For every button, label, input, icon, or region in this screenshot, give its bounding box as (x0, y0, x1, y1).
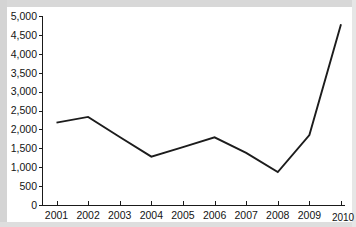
y-axis-tick-label: 2,000 (11, 123, 37, 135)
x-axis-tick-labels: 2001200220032004200520062007200820092010 (45, 209, 355, 223)
y-axis-tick-label: 500 (19, 180, 37, 192)
y-axis-tick-label: 3,500 (11, 67, 37, 79)
y-axis-tick-label: 3,000 (11, 85, 37, 97)
chart-plot-area: 05001,0001,5002,0002,5003,0003,5004,0004… (0, 0, 356, 227)
x-axis-tick-label: 2002 (76, 209, 100, 221)
x-axis-tick-label: 2006 (203, 209, 227, 221)
x-axis-tick-label: 2005 (171, 209, 195, 221)
x-axis-tick-label: 2010 (332, 212, 355, 223)
line-chart-figure: 05001,0001,5002,0002,5003,0003,5004,0004… (0, 0, 356, 227)
data-series-line (57, 24, 342, 172)
y-axis-tick-label: 4,000 (11, 48, 37, 60)
y-axis-tick-label: 1,000 (11, 161, 37, 173)
y-axis-tick-label: 5,000 (11, 10, 37, 22)
y-axis-tick-labels: 05001,0001,5002,0002,5003,0003,5004,0004… (11, 10, 37, 211)
x-axis-tick-label: 2009 (298, 209, 322, 221)
x-axis-tick-label: 2003 (108, 209, 132, 221)
x-axis-tick-marks (58, 201, 342, 206)
x-axis-tick-label: 2004 (140, 209, 164, 221)
y-axis-tick-label: 4,500 (11, 29, 37, 41)
y-axis-tick-label: 0 (31, 199, 37, 211)
y-axis-tick-marks (39, 17, 43, 206)
y-axis-tick-label: 2,500 (11, 104, 37, 116)
x-axis-tick-label: 2001 (45, 209, 69, 221)
y-axis-tick-label: 1,500 (11, 142, 37, 154)
x-axis-tick-label: 2007 (234, 209, 258, 221)
x-axis-tick-label: 2008 (266, 209, 290, 221)
